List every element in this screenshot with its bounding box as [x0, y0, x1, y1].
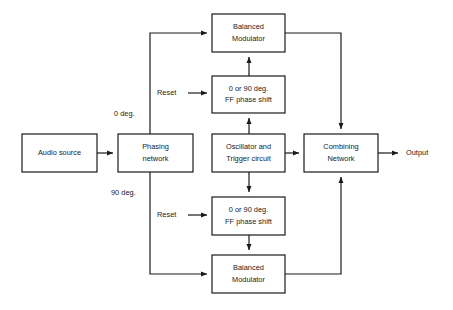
- block-label-balanced-modulator-bottom: Balanced: [233, 263, 264, 272]
- connector-phasing-to-modulator-top: [150, 33, 207, 134]
- block-label-audio-source: Audio source: [38, 148, 81, 157]
- block-audio-source: Audio source: [22, 134, 97, 172]
- edge-label-reset-top: Reset: [157, 88, 176, 97]
- block-phase-shift-top: 0 or 90 deg.FF phase shift: [212, 76, 285, 113]
- block-diagram: Audio sourcePhasingnetworkBalancedModula…: [0, 0, 453, 310]
- block-diagram-canvas: Audio sourcePhasingnetworkBalancedModula…: [0, 0, 453, 310]
- block-label-phase-shift-top: FF phase shift: [225, 95, 272, 104]
- block-oscillator-trigger: Oscillator andTrigger circuit: [212, 134, 285, 172]
- connector-phasing-to-modulator-bottom: [150, 172, 207, 274]
- block-combining-network: CombiningNetwork: [304, 134, 378, 172]
- block-label-combining-network: Network: [327, 154, 354, 163]
- block-label-balanced-modulator-top: Balanced: [233, 22, 264, 31]
- block-label-combining-network: Combining: [323, 142, 358, 151]
- block-label-phase-shift-bottom: FF phase shift: [225, 217, 272, 226]
- block-label-oscillator-trigger: Trigger circuit: [226, 154, 271, 163]
- connector-modulator-bottom-to-combining: [285, 177, 341, 274]
- connector-modulator-top-to-combining: [285, 33, 341, 129]
- block-label-oscillator-trigger: Oscillator and: [226, 142, 271, 151]
- block-balanced-modulator-bottom: BalancedModulator: [212, 255, 285, 293]
- edge-label-ninety-deg: 90 deg.: [111, 188, 136, 197]
- block-balanced-modulator-top: BalancedModulator: [212, 14, 285, 52]
- edge-label-zero-deg: 0 deg.: [114, 109, 135, 118]
- edge-label-reset-bottom: Reset: [157, 210, 176, 219]
- block-label-balanced-modulator-bottom: Modulator: [232, 275, 265, 284]
- edge-label-output: Output: [406, 148, 428, 157]
- blocks-layer: Audio sourcePhasingnetworkBalancedModula…: [22, 14, 378, 293]
- block-phasing-network: Phasingnetwork: [118, 134, 193, 172]
- block-label-phase-shift-top: 0 or 90 deg.: [229, 84, 268, 93]
- block-label-phasing-network: network: [143, 154, 169, 163]
- block-label-phasing-network: Phasing: [142, 142, 169, 151]
- block-label-phase-shift-bottom: 0 or 90 deg.: [229, 205, 268, 214]
- block-label-balanced-modulator-top: Modulator: [232, 34, 265, 43]
- block-phase-shift-bottom: 0 or 90 deg.FF phase shift: [212, 197, 285, 235]
